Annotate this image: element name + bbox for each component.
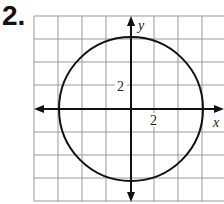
y-tick-label: 2 xyxy=(117,79,124,94)
x-tick-label: 2 xyxy=(150,113,157,128)
coordinate-graph: 2 2 y x xyxy=(0,0,224,204)
axes xyxy=(40,22,218,196)
x-axis-arrow-right xyxy=(214,105,224,113)
y-axis-arrow-up xyxy=(127,16,135,26)
x-axis-label: x xyxy=(212,115,220,130)
x-axis-arrow-left xyxy=(34,105,44,113)
y-axis-label: y xyxy=(136,18,145,33)
